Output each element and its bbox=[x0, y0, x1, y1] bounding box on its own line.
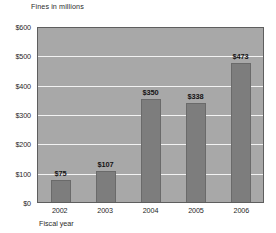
y-tick-label: $200 bbox=[15, 140, 31, 149]
bar-value-label: $338 bbox=[187, 92, 203, 101]
bar-slot: $338 bbox=[173, 28, 218, 202]
bar-slot: $350 bbox=[128, 28, 173, 202]
x-tick-label: 2003 bbox=[82, 206, 127, 218]
bar[interactable] bbox=[51, 180, 71, 202]
y-tick-label: $600 bbox=[15, 23, 31, 32]
y-tick-label: $100 bbox=[15, 169, 31, 178]
plot-area: $75$107$350$338$473 bbox=[37, 27, 264, 203]
x-axis: 20022003200420052006 bbox=[37, 206, 264, 218]
bar[interactable] bbox=[186, 103, 206, 202]
y-axis: $0$100$200$300$400$500$600 bbox=[0, 27, 34, 203]
bar-value-label: $350 bbox=[142, 88, 158, 97]
bar[interactable] bbox=[231, 63, 251, 202]
bars-group: $75$107$350$338$473 bbox=[38, 28, 263, 202]
x-tick-label: 2005 bbox=[173, 206, 218, 218]
x-tick-label: 2004 bbox=[128, 206, 173, 218]
bar-slot: $473 bbox=[218, 28, 263, 202]
bar-value-label: $75 bbox=[54, 169, 66, 178]
bar-slot: $75 bbox=[38, 28, 83, 202]
chart-title: Fines in millions bbox=[31, 2, 84, 11]
bar-slot: $107 bbox=[83, 28, 128, 202]
x-tick-label: 2002 bbox=[37, 206, 82, 218]
bar-value-label: $107 bbox=[97, 160, 113, 169]
y-tick-label: $400 bbox=[15, 81, 31, 90]
y-tick-label: $500 bbox=[15, 52, 31, 61]
bar-chart-figure: Fines in millions $0$100$200$300$400$500… bbox=[0, 0, 276, 233]
x-axis-title: Fiscal year bbox=[39, 219, 74, 228]
bar-value-label: $473 bbox=[232, 52, 248, 61]
y-tick-label: $300 bbox=[15, 111, 31, 120]
bar[interactable] bbox=[96, 171, 116, 202]
bar[interactable] bbox=[141, 99, 161, 202]
y-tick-label: $0 bbox=[23, 199, 31, 208]
x-tick-label: 2006 bbox=[219, 206, 264, 218]
